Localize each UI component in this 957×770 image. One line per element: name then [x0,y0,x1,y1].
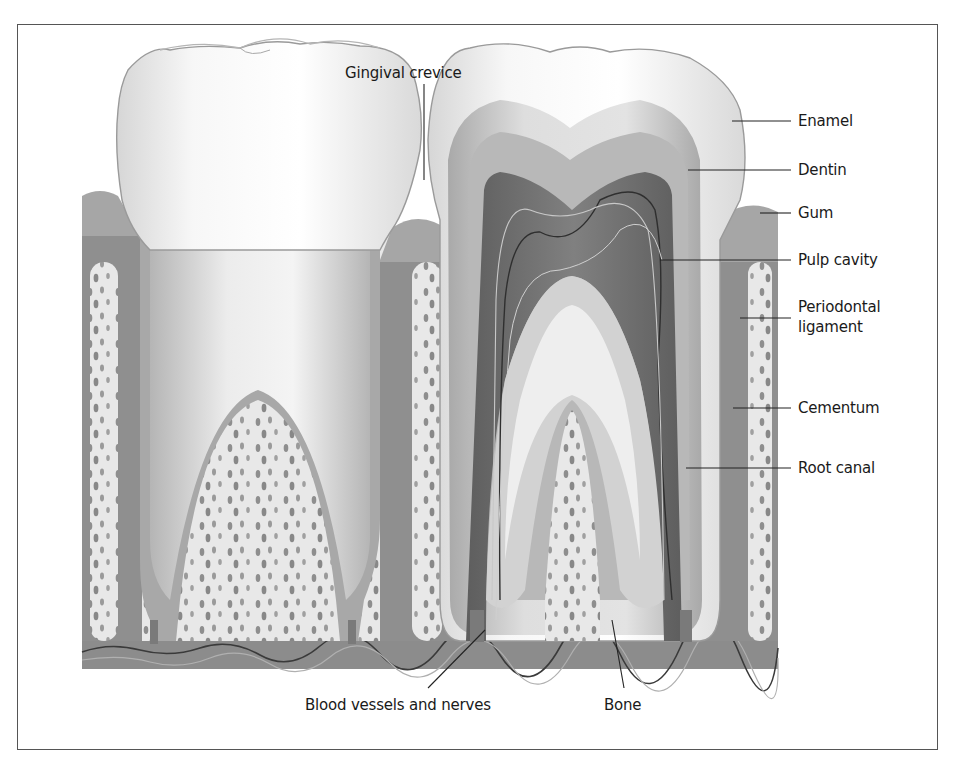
label-gingival-crevice: Gingival crevice [345,64,462,82]
label-dentin: Dentin [798,161,847,179]
label-cementum: Cementum [798,399,879,417]
label-ligament: ligament [798,318,863,336]
label-gum: Gum [798,204,833,222]
label-blood-vessels-and-nerves: Blood vessels and nerves [305,696,491,714]
label-bone: Bone [604,696,641,714]
label-root-canal: Root canal [798,459,875,477]
label-enamel: Enamel [798,112,853,130]
right-tooth [428,44,745,641]
label-pulp-cavity: Pulp cavity [798,251,878,269]
label-periodontal: Periodontal [798,298,881,316]
